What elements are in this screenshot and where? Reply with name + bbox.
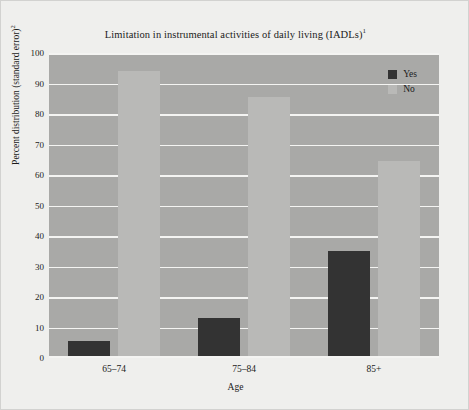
x-axis-label: Age <box>1 382 469 392</box>
gridline <box>49 84 439 86</box>
y-axis-tick-label: 70 <box>4 140 44 150</box>
y-axis-tick-label: 50 <box>4 201 44 211</box>
legend-item-no: No <box>388 84 417 94</box>
plot-area: Yes No <box>49 53 439 358</box>
y-axis-tick-label: 90 <box>4 79 44 89</box>
legend-label-no: No <box>403 84 415 94</box>
chart-title: Limitation in instrumental activities of… <box>1 27 469 40</box>
x-axis-tick-label: 65–74 <box>54 364 174 374</box>
y-axis-tick-label: 60 <box>4 170 44 180</box>
y-axis-tick-label: 100 <box>4 48 44 58</box>
legend-item-yes: Yes <box>388 69 417 79</box>
chart-figure: Limitation in instrumental activities of… <box>0 0 469 410</box>
gridline <box>49 114 439 116</box>
bar-yes-85+ <box>328 251 370 358</box>
bar-no-65–74 <box>118 71 160 358</box>
y-axis-tick-label: 20 <box>4 292 44 302</box>
y-axis-tick-label: 30 <box>4 262 44 272</box>
x-axis-tick-label: 75–84 <box>184 364 304 374</box>
chart-legend: Yes No <box>388 69 417 99</box>
y-axis-tick-label: 10 <box>4 323 44 333</box>
gridline <box>49 53 439 55</box>
y-axis-label-footnote-marker: 2 <box>9 25 16 28</box>
y-axis-tick-label: 80 <box>4 109 44 119</box>
axis-baseline <box>49 356 439 358</box>
chart-title-text: Limitation in instrumental activities of… <box>105 29 363 40</box>
gridline <box>49 145 439 147</box>
legend-label-yes: Yes <box>403 69 417 79</box>
y-axis-tick-label: 40 <box>4 231 44 241</box>
x-axis-tick-label: 85+ <box>314 364 434 374</box>
bar-yes-75–84 <box>198 318 240 358</box>
chart-title-footnote-marker: 1 <box>363 27 367 35</box>
legend-swatch-no-icon <box>388 85 397 94</box>
bar-no-85+ <box>378 161 420 358</box>
legend-swatch-yes-icon <box>388 70 397 79</box>
y-axis-tick-label: 0 <box>4 353 44 363</box>
bar-no-75–84 <box>248 97 290 358</box>
